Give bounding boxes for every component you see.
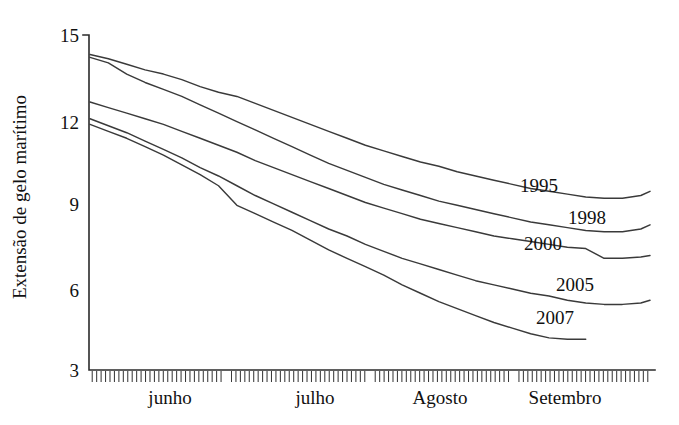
x-axis-day-ticks — [92, 371, 648, 382]
series-label-1998: 1998 — [568, 207, 606, 228]
series-label-2005: 2005 — [556, 274, 594, 295]
month-label-agosto: Agosto — [413, 387, 468, 408]
y-tick-label-9: 9 — [70, 194, 80, 215]
series-lines — [90, 55, 650, 340]
x-axis-month-labels: junho julho Agosto Setembro — [147, 387, 601, 408]
series-line-2000 — [90, 102, 650, 258]
month-label-junho: junho — [147, 387, 191, 408]
series-line-1995 — [90, 55, 650, 199]
y-tick-label-15: 15 — [60, 25, 79, 46]
series-label-2007: 2007 — [536, 307, 574, 328]
series-line-1998 — [90, 57, 650, 231]
y-axis-title-text: Extensão de gelo marítimo — [9, 95, 30, 299]
y-axis-title: Extensão de gelo marítimo — [9, 95, 30, 299]
y-tick-label-12: 12 — [60, 112, 79, 133]
chart-canvas: Extensão de gelo marítimo 15 12 9 6 3 ju… — [0, 0, 679, 425]
series-label-1995: 1995 — [520, 175, 558, 196]
y-tick-label-3: 3 — [70, 360, 80, 381]
y-axis-tick-labels: 15 12 9 6 3 — [60, 25, 79, 381]
month-label-setembro: Setembro — [529, 387, 602, 408]
month-label-julho: julho — [294, 387, 334, 408]
sea-ice-extent-chart: Extensão de gelo marítimo 15 12 9 6 3 ju… — [0, 0, 679, 425]
series-label-2000: 2000 — [524, 233, 562, 254]
y-tick-label-6: 6 — [70, 280, 80, 301]
